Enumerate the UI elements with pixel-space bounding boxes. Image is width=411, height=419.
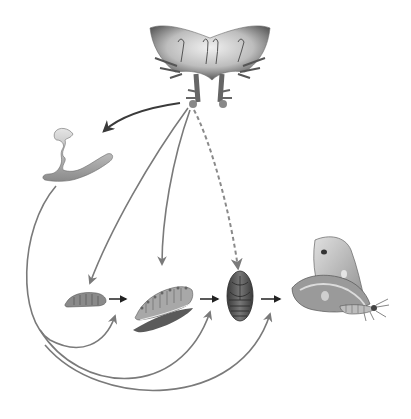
moth-icon	[292, 237, 389, 321]
prothoracic-gland-icon	[43, 128, 113, 181]
life-cycle-diagram	[0, 0, 411, 419]
arrow-gland-to-mature-larva-pupa	[40, 312, 210, 378]
brain-endocrine-glands-icon	[150, 26, 270, 108]
arrow-brain-to-gland	[104, 103, 180, 131]
young-larva-icon	[65, 292, 106, 307]
pupa-icon	[227, 271, 253, 321]
arrow-brain-to-mature-larva	[162, 110, 190, 264]
arrow-brain-to-young-larva	[90, 108, 188, 283]
arrow-brain-to-pupa-dashed	[194, 110, 238, 268]
mature-larva-icon	[133, 287, 193, 333]
arrow-gland-to-young-larva	[27, 186, 115, 347]
